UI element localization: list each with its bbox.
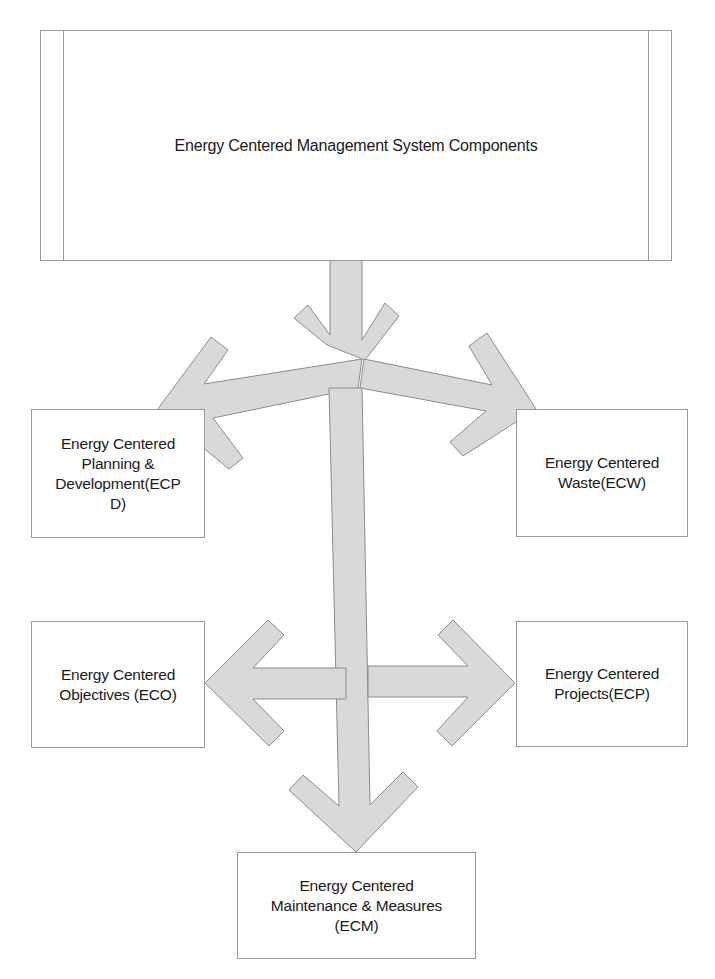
arrow-title-to-junction	[294, 260, 399, 360]
component-label-projects: Energy Centered Projects(ECP)	[545, 664, 659, 704]
component-label-waste: Energy Centered Waste(ECW)	[545, 453, 659, 493]
arrow-to-objectives	[205, 620, 346, 746]
component-label-objectives: Energy Centered Objectives (ECO)	[59, 665, 176, 705]
component-label-maintenance: Energy Centered Maintenance & Measures (…	[271, 876, 442, 936]
arrow-to-waste	[360, 333, 536, 456]
component-box-planning: Energy Centered Planning & Development(E…	[31, 409, 205, 538]
component-label-planning: Energy Centered Planning & Development(E…	[55, 434, 180, 514]
component-box-objectives: Energy Centered Objectives (ECO)	[31, 621, 205, 748]
component-box-projects: Energy Centered Projects(ECP)	[516, 621, 688, 747]
arrow-to-maintenance	[289, 388, 418, 852]
arrow-to-projects	[368, 620, 515, 746]
diagram-title: Energy Centered Management System Compon…	[175, 136, 538, 156]
component-box-maintenance: Energy Centered Maintenance & Measures (…	[237, 852, 476, 959]
component-box-waste: Energy Centered Waste(ECW)	[516, 409, 688, 537]
title-box: Energy Centered Management System Compon…	[40, 30, 672, 261]
